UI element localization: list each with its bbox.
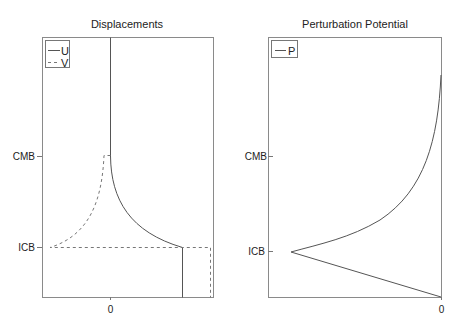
u-curve xyxy=(111,38,183,298)
icb-label: ICB xyxy=(248,246,265,257)
plot-frame xyxy=(269,38,442,298)
figure: Displacements CMB ICB 0 U V Perturbation… xyxy=(0,0,461,328)
zero-label: 0 xyxy=(439,304,445,315)
zero-label: 0 xyxy=(108,304,114,315)
icb-label: ICB xyxy=(18,242,35,253)
v-curve xyxy=(50,156,211,298)
legend-v-label: V xyxy=(61,57,69,69)
displacements-panel: Displacements CMB ICB 0 U V xyxy=(13,18,214,315)
plot-frame xyxy=(43,38,214,298)
p-curve xyxy=(291,75,441,297)
perturbation-potential-panel: Perturbation Potential CMB ICB 0 P xyxy=(245,18,445,315)
cmb-label: CMB xyxy=(245,151,268,162)
legend-p-label: P xyxy=(288,45,295,57)
cmb-label: CMB xyxy=(13,151,36,162)
displacements-title: Displacements xyxy=(91,18,164,30)
legend-u-label: U xyxy=(61,45,69,57)
perturbation-potential-title: Perturbation Potential xyxy=(302,18,408,30)
